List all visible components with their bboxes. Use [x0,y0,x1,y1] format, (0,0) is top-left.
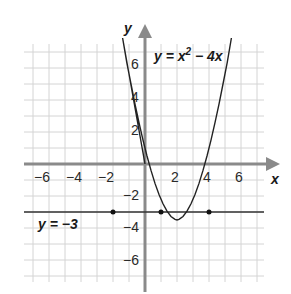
svg-text:−4: −4 [66,169,82,185]
svg-text:6: 6 [235,169,243,185]
coordinate-plane: y x −6 −4 −2 2 4 6 6 4 2 −2 −4 −6 y = x2… [0,0,291,294]
svg-text:2: 2 [171,169,179,185]
svg-text:−6: −6 [123,252,139,268]
point-1-neg3 [159,210,164,215]
x-tick-labels: −6 −4 −2 2 4 6 [34,169,243,185]
x-axis-label: x [270,171,280,187]
x-axis-arrow-icon [266,157,280,171]
svg-text:6: 6 [131,56,139,72]
line-equation-label: y = −3 [37,216,78,232]
svg-text:−2: −2 [98,169,114,185]
y-axis-label: y [123,20,133,36]
point-neg2-neg3 [111,210,116,215]
svg-text:−6: −6 [34,169,50,185]
svg-text:2: 2 [131,122,139,138]
y-axis-arrow-icon [138,24,152,38]
y-axis [138,24,152,292]
svg-text:−4: −4 [123,219,139,235]
point-4-neg3 [207,210,212,215]
svg-text:−2: −2 [123,187,139,203]
parabola-equation-label: y = x2 − 4x [153,46,224,64]
svg-text:4: 4 [203,169,211,185]
svg-text:4: 4 [131,89,139,105]
